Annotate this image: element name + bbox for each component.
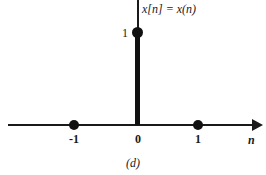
signal-equation-label: x[n] = x(n) — [142, 3, 196, 15]
amplitude-tick-label-1: 1 — [122, 27, 128, 39]
stem-bar-n0 — [135, 33, 140, 125]
sample-marker-n-plus-1 — [193, 120, 203, 130]
sample-marker-n0 — [132, 27, 143, 38]
x-tick-label-minus-1: -1 — [69, 133, 79, 145]
x-axis-arrowhead-icon — [252, 119, 263, 131]
x-tick-label-zero: 0 — [135, 133, 141, 145]
figure-caption: (d) — [126, 157, 140, 169]
discrete-signal-figure: 1 -1 0 1 n x[n] = x(n) (d) — [0, 0, 266, 175]
sample-marker-n-minus-1 — [69, 120, 79, 130]
x-axis-variable-label: n — [248, 134, 255, 146]
x-axis-line — [8, 124, 256, 126]
x-tick-label-plus-1: 1 — [195, 133, 201, 145]
